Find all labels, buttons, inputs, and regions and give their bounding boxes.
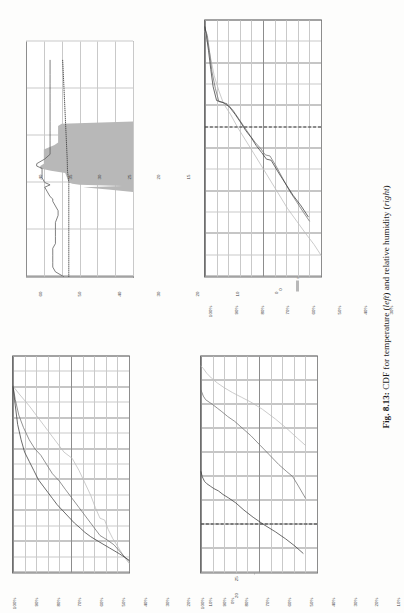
series-canvas — [201, 356, 317, 572]
y-tick-label: 60 — [38, 291, 43, 311]
plot-area-rh — [12, 355, 130, 573]
figure-caption-em-left: left — [381, 295, 391, 307]
gridline-horizontal — [129, 356, 130, 572]
series-line-october — [205, 31, 321, 255]
y-tick-label: 90% — [233, 305, 238, 325]
series-canvas — [26, 41, 133, 276]
plot-area-co2 — [204, 19, 322, 277]
document-page: [%] octobernovemberdecember 202530354045… — [0, 0, 404, 613]
figure-caption-em-right: right — [381, 188, 391, 206]
y-tick-label: 100% — [200, 597, 205, 613]
reference-line — [201, 523, 317, 524]
series-line-december — [13, 386, 129, 560]
series-area-n-people — [40, 41, 133, 276]
chart-environment-profile: T [°C], RH [%] [n. people] n. peopleRela… — [8, 9, 180, 307]
gridline-horizontal — [317, 356, 318, 572]
y-tick-label: 60% — [287, 597, 292, 613]
y-tick-label: 40% — [330, 597, 335, 613]
y-tick-label: 90% — [221, 597, 226, 613]
series-line-october — [13, 386, 129, 563]
y-tick-label: 40% — [362, 305, 367, 325]
series-line-december — [201, 471, 303, 553]
y-tick-label: 35 — [67, 174, 72, 179]
gridline-horizontal — [321, 20, 322, 276]
y-tick-label: 10% — [396, 597, 401, 613]
y-tick-label: 80% — [259, 305, 264, 325]
y-tick-label: 60% — [311, 305, 316, 325]
y-tick-label: 30% — [164, 597, 169, 613]
y-tick-label: 30 — [97, 174, 102, 179]
chart-relative-humidity-cdf: [%] octobernovemberdecember 202530354045… — [8, 349, 168, 599]
chart-co2-cdf: [ppm] octobernovemberdecember 3005007009… — [200, 9, 366, 307]
series-line-october — [201, 366, 305, 445]
y-tick-label: 80% — [55, 597, 60, 613]
y-tick-label: 70% — [77, 597, 82, 613]
figure-caption-label: Fig. 8.13: — [381, 392, 391, 429]
y-tick-label: 20% — [374, 597, 379, 613]
plot-area-env — [26, 41, 134, 277]
y-tick-label: 25 — [126, 174, 131, 179]
figure-caption: Fig. 8.13: CDF for temperature (left) an… — [381, 185, 391, 428]
y-tick-label: 20 — [156, 174, 161, 179]
series-line-november — [13, 386, 129, 561]
y-tick-label: 90% — [33, 597, 38, 613]
y-tick-label: 40% — [142, 597, 147, 613]
y-tick-label: 100% — [12, 597, 17, 613]
reference-line — [205, 126, 321, 127]
y-tick-label: 50 — [77, 291, 82, 311]
series-canvas — [13, 356, 129, 572]
y-tick-label: 70% — [285, 305, 290, 325]
chart-temperature-cdf: [°C] octobernovemberdecember 18192021222… — [196, 349, 366, 599]
y-tick-label: 30 — [156, 291, 161, 311]
figure-container: [%] octobernovemberdecember 202530354045… — [0, 0, 404, 613]
y-tick-label: 15 — [185, 174, 190, 179]
y-tick-label: 70% — [265, 597, 270, 613]
series-line-november — [205, 29, 309, 221]
plot-area-temp — [200, 355, 318, 573]
figure-caption-text-after: ) — [381, 185, 391, 188]
y-tick-label: 40 — [38, 174, 43, 179]
y-tick-label: 80% — [243, 597, 248, 613]
y-tick-label: 60% — [99, 597, 104, 613]
series-canvas — [205, 20, 321, 276]
figure-caption-text-mid: ) and relative humidity ( — [381, 206, 391, 295]
y-tick-label: 30% — [352, 597, 357, 613]
y-tick-label: 50% — [337, 305, 342, 325]
y-tick-label: 20% — [186, 597, 191, 613]
y-tick-label: 50% — [121, 597, 126, 613]
y-tick-label: 40 — [116, 291, 121, 311]
gridline-horizontal — [133, 41, 134, 276]
series-line-november — [201, 390, 305, 498]
figure-caption-text-before: CDF for temperature ( — [381, 307, 391, 392]
series-line-december — [205, 26, 308, 216]
y-tick-label: 100% — [208, 305, 213, 325]
y-tick-label: 50% — [309, 597, 314, 613]
